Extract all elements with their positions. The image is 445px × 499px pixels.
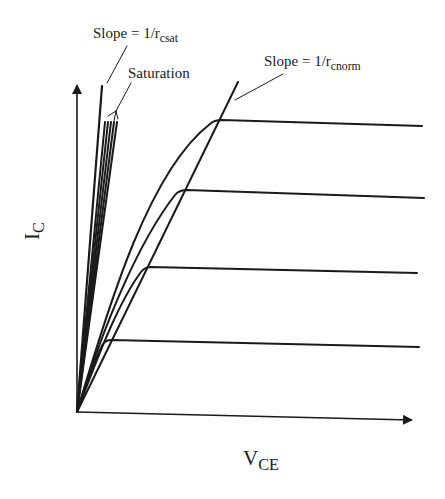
curve-ib3 [77, 190, 424, 412]
slope-cnorm-subscript: cnorm [331, 60, 361, 73]
slope-cnorm-label: Slope = 1/rcnorm [264, 54, 361, 69]
saturation-label: Saturation [128, 66, 190, 81]
y-axis-label-sub: C [29, 222, 48, 233]
transistor-characteristic-diagram [0, 0, 445, 499]
slope-cnorm-text: Slope = 1/r [264, 53, 331, 69]
x-axis-label: VCE [243, 448, 279, 469]
y-axis-label: IC [22, 222, 43, 240]
x-axis-label-main: V [243, 446, 258, 470]
y-axis-label-main: I [20, 233, 44, 240]
slope-csat-label: Slope = 1/rcsat [93, 26, 178, 41]
slope-csat-subscript: csat [160, 32, 178, 45]
x-axis-label-sub: CE [258, 455, 279, 474]
leader-cnorm [235, 74, 283, 100]
leader-saturation [108, 83, 131, 121]
slope-csat-text: Slope = 1/r [93, 25, 160, 41]
leader-csat [107, 46, 127, 83]
slope-cnorm-line [77, 82, 238, 412]
curve-ib1 [77, 340, 419, 412]
x-axis [77, 412, 411, 420]
curve-ib4 [77, 120, 422, 412]
